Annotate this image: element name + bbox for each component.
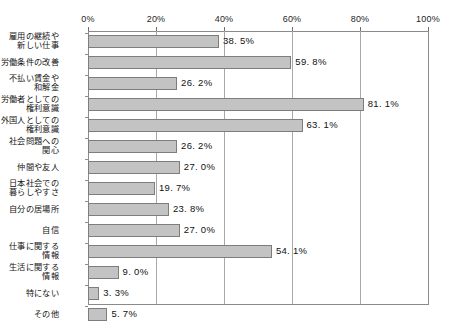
bar-row: その他5. 7% <box>88 304 428 325</box>
category-axis-tick <box>85 75 88 76</box>
bar-row: 仲間や友人27. 0% <box>88 157 428 178</box>
bar <box>88 287 99 300</box>
category-label: 仲間や友人 <box>0 163 59 173</box>
x-axis-tick-label: 20% <box>147 14 166 25</box>
bar <box>88 266 119 279</box>
axis-line-right <box>428 31 429 305</box>
category-axis-tick <box>85 306 88 307</box>
category-axis-tick <box>85 138 88 139</box>
category-label: 外国人としての 権利意識 <box>0 116 59 135</box>
bar-row: 雇用の継続や 新しい仕事38. 5% <box>88 31 428 52</box>
category-label: 仕事に関する 情報 <box>0 242 59 261</box>
bar-value-label: 27. 0% <box>184 160 215 174</box>
bar-row: 特にない3. 3% <box>88 283 428 304</box>
category-label: 社会問題への 関心 <box>0 137 59 156</box>
x-axis-tick-label: 80% <box>351 14 370 25</box>
bar-row: 労働条件の改善59. 8% <box>88 52 428 73</box>
bar <box>88 182 155 195</box>
bar <box>88 203 169 216</box>
bar-value-label: 9. 0% <box>123 265 149 279</box>
category-label: 雇用の継続や 新しい仕事 <box>0 32 59 51</box>
bar-value-label: 5. 7% <box>111 307 137 321</box>
bar <box>88 308 107 321</box>
x-axis-tick-label: 0% <box>81 14 94 25</box>
bar <box>88 140 177 153</box>
category-axis-tick <box>85 180 88 181</box>
x-axis-tick-labels: 0%20%40%60%80%100% <box>88 14 428 28</box>
x-axis-tick-label: 60% <box>283 14 302 25</box>
bar <box>88 224 180 237</box>
bar-row: 労働者としての 権利意識81. 1% <box>88 94 428 115</box>
x-axis-tick <box>428 27 429 31</box>
category-axis-tick <box>85 222 88 223</box>
category-label: 労働者としての 権利意識 <box>0 95 59 114</box>
category-label: 労働条件の改善 <box>0 58 59 68</box>
category-axis-tick <box>85 54 88 55</box>
bar-value-label: 19. 7% <box>159 181 190 195</box>
bar-value-label: 26. 2% <box>181 139 212 153</box>
category-label: 不払い賃金や 和解金 <box>0 74 59 93</box>
bar-value-label: 26. 2% <box>181 76 212 90</box>
bar-row: 自分の居場所23. 8% <box>88 199 428 220</box>
bar-value-label: 38. 5% <box>223 34 254 48</box>
bar <box>88 245 272 258</box>
bar <box>88 119 303 132</box>
bar-row: 自信27. 0% <box>88 220 428 241</box>
bar-row: 生活に関する 情報9. 0% <box>88 262 428 283</box>
x-axis-tick-label: 40% <box>215 14 234 25</box>
bar <box>88 161 180 174</box>
bar <box>88 35 219 48</box>
bar-row: 不払い賃金や 和解金26. 2% <box>88 73 428 94</box>
bar-value-label: 27. 0% <box>184 223 215 237</box>
category-label: 日本社会での 暮らしやすさ <box>0 179 59 198</box>
category-axis-tick <box>85 285 88 286</box>
bar <box>88 98 364 111</box>
x-axis-tick-label: 100% <box>416 14 440 25</box>
bar-value-label: 3. 3% <box>103 286 129 300</box>
category-axis-tick <box>85 159 88 160</box>
category-axis-tick <box>85 117 88 118</box>
category-axis-tick <box>85 96 88 97</box>
bar-value-label: 54. 1% <box>276 244 307 258</box>
category-axis-tick <box>85 243 88 244</box>
category-axis-tick <box>85 201 88 202</box>
category-axis-tick <box>85 264 88 265</box>
category-label: 自信 <box>0 226 59 236</box>
bar-chart: 0%20%40%60%80%100% 雇用の継続や 新しい仕事38. 5%労働条… <box>0 0 453 326</box>
bar-row: 日本社会での 暮らしやすさ19. 7% <box>88 178 428 199</box>
bar-value-label: 63. 1% <box>307 118 338 132</box>
bar-row: 外国人としての 権利意識63. 1% <box>88 115 428 136</box>
bar <box>88 56 291 69</box>
bar-row: 仕事に関する 情報54. 1% <box>88 241 428 262</box>
bar-value-label: 81. 1% <box>368 97 399 111</box>
category-label: 特にない <box>0 289 59 299</box>
bar-value-label: 59. 8% <box>295 55 326 69</box>
category-axis-tick <box>85 33 88 34</box>
bar <box>88 77 177 90</box>
bar-row: 社会問題への 関心26. 2% <box>88 136 428 157</box>
category-label: 自分の居場所 <box>0 205 59 215</box>
category-label: 生活に関する 情報 <box>0 263 59 282</box>
plot-area: 雇用の継続や 新しい仕事38. 5%労働条件の改善59. 8%不払い賃金や 和解… <box>88 31 428 304</box>
bar-value-label: 23. 8% <box>173 202 204 216</box>
category-label: その他 <box>0 310 59 320</box>
